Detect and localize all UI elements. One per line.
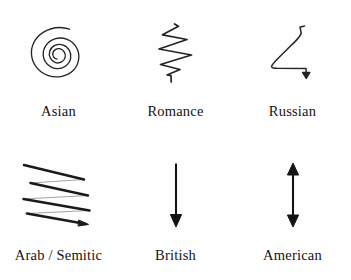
double-headed-arrow-icon: [234, 154, 351, 236]
bent-arrow-icon: [234, 10, 351, 96]
symbol-cell-american: American: [234, 140, 351, 280]
symbol-label-russian: Russian: [269, 104, 316, 119]
spiral-icon: [0, 10, 117, 96]
symbol-label-romance: Romance: [147, 104, 203, 119]
vertical-zigzag-icon: [117, 10, 234, 96]
symbol-label-arab-semitic: Arab / Semitic: [15, 248, 102, 263]
symbol-label-american: American: [263, 248, 322, 263]
symbol-label-british: British: [155, 248, 196, 263]
symbol-cell-asian: Asian: [0, 0, 117, 140]
symbol-cell-russian: Russian: [234, 0, 351, 140]
down-arrow-icon: [117, 154, 234, 236]
symbol-grid: Asian Romance Russian: [0, 0, 351, 280]
symbol-cell-romance: Romance: [117, 0, 234, 140]
symbol-cell-arab-semitic: Arab / Semitic: [0, 140, 117, 280]
symbol-cell-british: British: [117, 140, 234, 280]
horizontal-zigzag-arrow-icon: [0, 154, 117, 236]
communication-styles-figure: Asian Romance Russian: [0, 0, 351, 280]
symbol-label-asian: Asian: [41, 104, 76, 119]
